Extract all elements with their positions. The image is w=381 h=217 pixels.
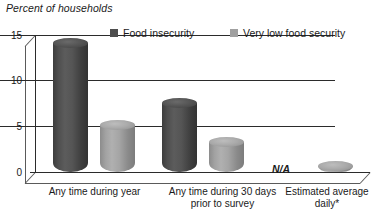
y-axis-title: Percent of households [6,2,113,14]
bar-body [53,43,88,172]
legend-item-very-low-food-security[interactable]: Very low food security [230,27,345,39]
bar-cap [209,137,244,147]
na-annotation: N/A [272,163,290,175]
legend-label-very-low-food-security: Very low food security [243,27,345,39]
bar-very-low-food-security-30-days [209,137,244,172]
legend-item-food-insecurity[interactable]: Food insecurity [110,27,194,39]
axis-depth-connector-right [360,172,371,184]
bar-cap [53,38,88,48]
bar-cap [100,120,135,130]
y-axis-back-line [25,46,26,183]
x-axis-label-line1: Estimated average [273,186,381,198]
axis-depth-connector-top [25,35,36,47]
bar-cap [318,161,353,171]
y-axis-label-5: 5 [0,121,22,132]
legend-label-food-insecurity: Food insecurity [123,27,194,39]
x-axis-line [35,172,370,173]
y-tick-0 [30,172,35,173]
y-tick-5 [30,126,35,127]
legend-swatch-icon-very-low-food-security [230,29,238,37]
bar-body [100,125,135,172]
y-axis-label-0: 0 [0,167,22,178]
legend-swatch-icon-food-insecurity [110,29,118,37]
bar-cap [162,98,197,108]
y-axis-label-15: 15 [0,30,22,41]
x-axis-label-line1: Any time during year [27,186,162,198]
x-axis-label-estimated-average-daily: Estimated average daily* [273,186,381,209]
gridline-10 [0,80,335,81]
bar-very-low-food-security-estimated-average-daily [318,161,353,172]
x-axis-label-any-time-during-year: Any time during year [27,186,162,198]
chart-container: Percent of households 15 10 5 0 N/A [0,0,381,217]
x-axis-back-line [25,183,360,184]
y-axis-label-10: 10 [0,75,22,86]
bar-body [162,103,197,172]
x-axis-label-line2: daily* [273,198,381,210]
y-tick-15 [30,35,35,36]
y-axis-line [35,35,36,172]
bar-very-low-food-security-any-time-during-year [100,120,135,172]
bar-food-insecurity-any-time-during-year [53,38,88,172]
y-tick-10 [30,80,35,81]
bar-food-insecurity-30-days [162,98,197,172]
